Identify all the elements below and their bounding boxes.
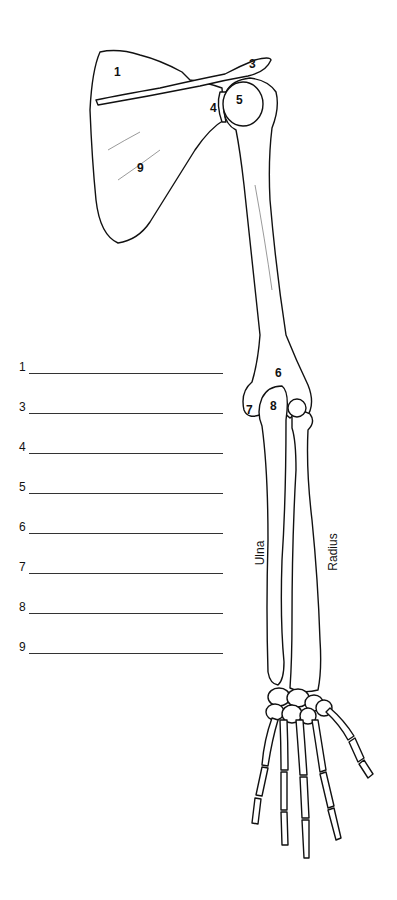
ulna xyxy=(259,386,287,685)
answer-number: 9 xyxy=(19,640,26,654)
answer-blank-line[interactable] xyxy=(29,373,223,374)
answer-number: 1 xyxy=(19,360,26,374)
callout-3: 3 xyxy=(249,57,256,71)
answer-row[interactable]: 9 xyxy=(19,640,223,654)
answer-number: 6 xyxy=(19,520,26,534)
radius-label: Radius xyxy=(326,533,340,570)
answer-number: 3 xyxy=(19,400,26,414)
answer-blank-line[interactable] xyxy=(29,533,223,534)
answer-blank-line[interactable] xyxy=(29,453,223,454)
callout-5: 5 xyxy=(236,93,243,107)
answer-row[interactable]: 1 xyxy=(19,360,223,374)
answer-row[interactable]: 7 xyxy=(19,560,223,574)
radius xyxy=(290,411,321,692)
hand-bones xyxy=(252,708,373,858)
answer-blank-line[interactable] xyxy=(29,653,223,654)
answer-number: 7 xyxy=(19,560,26,574)
answer-number: 4 xyxy=(19,440,26,454)
callout-1: 1 xyxy=(114,65,121,79)
answer-row[interactable]: 5 xyxy=(19,480,223,494)
humeral-head xyxy=(223,82,263,126)
ulna-label: Ulna xyxy=(253,541,267,566)
answer-number: 8 xyxy=(19,600,26,614)
answer-blank-line[interactable] xyxy=(29,573,223,574)
answer-row[interactable]: 3 xyxy=(19,400,223,414)
answer-row[interactable]: 8 xyxy=(19,600,223,614)
callout-6: 6 xyxy=(275,366,282,380)
answer-blank-line[interactable] xyxy=(29,413,223,414)
callout-8: 8 xyxy=(270,399,277,413)
answer-row[interactable]: 6 xyxy=(19,520,223,534)
answer-blank-line[interactable] xyxy=(29,613,223,614)
callout-7: 7 xyxy=(246,403,253,417)
answer-row[interactable]: 4 xyxy=(19,440,223,454)
answer-number: 5 xyxy=(19,480,26,494)
answer-blank-line[interactable] xyxy=(29,493,223,494)
humerus xyxy=(224,78,312,418)
callout-4: 4 xyxy=(210,101,217,115)
callout-9: 9 xyxy=(137,161,144,175)
